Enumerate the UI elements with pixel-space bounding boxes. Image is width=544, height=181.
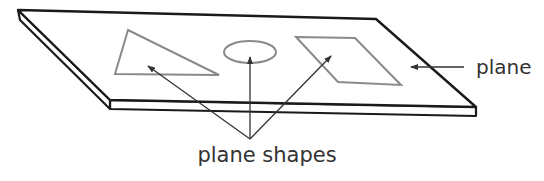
plane-label: plane	[476, 55, 532, 79]
plane-top-face	[18, 10, 476, 107]
plane-shapes-label: plane shapes	[197, 143, 336, 167]
plane-diagram: plane plane shapes	[0, 0, 544, 181]
